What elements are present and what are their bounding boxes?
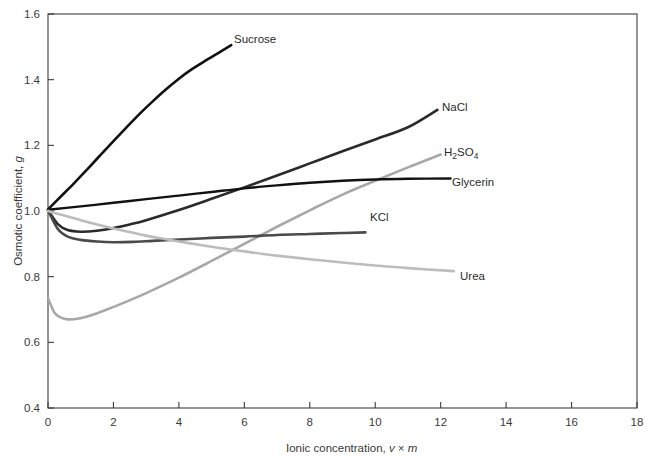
chart-svg: 024681012141618 0.40.60.81.01.21.41.6 Su… bbox=[0, 0, 656, 461]
x-tick-label: 10 bbox=[369, 416, 382, 428]
x-tick-label: 12 bbox=[434, 416, 447, 428]
series-label-kcl: KCl bbox=[370, 211, 389, 223]
x-tick-label: 6 bbox=[241, 416, 247, 428]
y-tick-label: 1.4 bbox=[24, 74, 41, 86]
series-label-glycerin: Glycerin bbox=[452, 176, 494, 188]
x-tick-label: 4 bbox=[176, 416, 183, 428]
x-axis-title: Ionic concentration, v × m bbox=[286, 442, 418, 454]
y-tick-label: 1.0 bbox=[24, 205, 40, 217]
x-tick-label: 0 bbox=[45, 416, 51, 428]
x-tick-label: 18 bbox=[631, 416, 644, 428]
osmotic-coefficient-chart: 024681012141618 0.40.60.81.01.21.41.6 Su… bbox=[0, 0, 656, 461]
x-tick-label: 2 bbox=[110, 416, 116, 428]
series-label-urea: Urea bbox=[460, 270, 486, 282]
y-tick-label: 0.6 bbox=[24, 336, 40, 348]
x-tick-label: 8 bbox=[307, 416, 313, 428]
y-tick-label: 0.8 bbox=[24, 271, 40, 283]
x-tick-label: 16 bbox=[565, 416, 578, 428]
y-tick-label: 1.6 bbox=[24, 8, 40, 20]
series-label-sucrose: Sucrose bbox=[234, 33, 276, 45]
series-label-nacl: NaCl bbox=[442, 101, 468, 113]
y-tick-label: 1.2 bbox=[24, 139, 40, 151]
y-axis-title: Osmotic coefficient, g bbox=[12, 156, 24, 266]
x-tick-label: 14 bbox=[500, 416, 513, 428]
y-tick-label: 0.4 bbox=[24, 402, 41, 414]
